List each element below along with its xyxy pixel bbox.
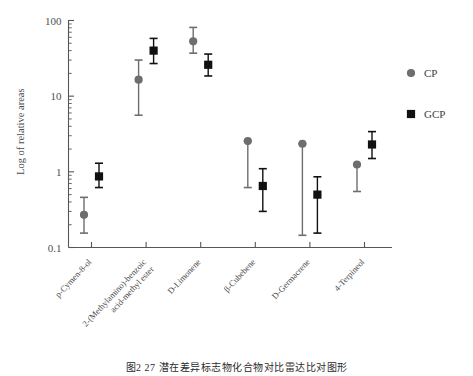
marker-square bbox=[313, 191, 321, 199]
marker-circle bbox=[189, 37, 197, 45]
data-point-gcp bbox=[150, 38, 158, 63]
figure-caption: 图2 27 潜在差异标志物化合物对比雷达比对图形 bbox=[0, 357, 473, 376]
data-point-cp bbox=[298, 140, 306, 236]
legend-label: GCP bbox=[424, 108, 445, 120]
legend-marker-circle bbox=[407, 69, 415, 77]
data-point-cp bbox=[135, 60, 143, 115]
marker-square bbox=[150, 47, 158, 55]
x-axis-labels: p-Cymen-8-ol2-(Methylamino)-benzoicacid-… bbox=[53, 257, 367, 336]
marker-square bbox=[204, 61, 212, 69]
marker-circle bbox=[135, 76, 143, 84]
y-tick-label: 1 bbox=[56, 166, 62, 178]
y-axis-title: Log of relative areas bbox=[15, 88, 26, 175]
x-tick-label-line: p-Cymen-8-ol bbox=[53, 257, 94, 300]
data-point-gcp bbox=[204, 54, 212, 76]
x-tick-label: 2-(Methylamino)-benzoicacid-methyl ester bbox=[80, 257, 156, 336]
x-tick-label-line: β-Cubebene bbox=[222, 257, 258, 294]
data-points-layer bbox=[80, 27, 376, 235]
y-tick-label: 100 bbox=[45, 15, 62, 27]
data-point-cp bbox=[189, 27, 197, 53]
legend-label: CP bbox=[424, 67, 437, 79]
data-point-gcp bbox=[368, 132, 376, 159]
y-axis-labels: 0.1110100Log of relative areas bbox=[15, 15, 62, 254]
y-tick-label: 10 bbox=[51, 90, 63, 102]
marker-circle bbox=[244, 137, 252, 145]
axis-layer bbox=[69, 20, 393, 248]
x-tick-label: D-Germacrene bbox=[270, 257, 312, 301]
x-tick-label-line: D-Limonene bbox=[165, 257, 202, 296]
x-tick-label-line: 4-Terpineol bbox=[332, 257, 367, 293]
data-point-cp bbox=[80, 197, 88, 233]
marker-square bbox=[368, 140, 376, 148]
y-tick-label: 0.1 bbox=[48, 242, 62, 254]
marker-square bbox=[259, 182, 267, 190]
figure-container: p-Cymen-8-ol2-(Methylamino)-benzoicacid-… bbox=[0, 0, 473, 376]
data-point-cp bbox=[244, 137, 252, 188]
chart-canvas: p-Cymen-8-ol2-(Methylamino)-benzoicacid-… bbox=[0, 0, 473, 376]
x-tick-label: β-Cubebene bbox=[222, 257, 258, 294]
data-point-gcp bbox=[313, 177, 321, 233]
legend-item-cp[interactable]: CP bbox=[407, 67, 438, 79]
marker-circle bbox=[298, 140, 306, 148]
data-point-gcp bbox=[95, 163, 103, 187]
data-point-cp bbox=[353, 160, 361, 191]
x-tick-label-line: D-Germacrene bbox=[270, 257, 312, 301]
marker-circle bbox=[80, 211, 88, 219]
x-tick-label: p-Cymen-8-ol bbox=[53, 257, 94, 300]
marker-square bbox=[95, 172, 103, 180]
data-point-gcp bbox=[259, 169, 267, 212]
x-tick-label: D-Limonene bbox=[165, 257, 202, 296]
y-axis-title-text: Log of relative areas bbox=[15, 88, 26, 175]
legend-item-gcp[interactable]: GCP bbox=[407, 108, 446, 120]
chart-legend: CPGCP bbox=[407, 67, 446, 120]
marker-circle bbox=[353, 160, 361, 168]
x-tick-label-line: 2-(Methylamino)-benzoic bbox=[80, 257, 148, 329]
x-tick-label: 4-Terpineol bbox=[332, 257, 367, 293]
legend-marker-square bbox=[407, 110, 415, 118]
